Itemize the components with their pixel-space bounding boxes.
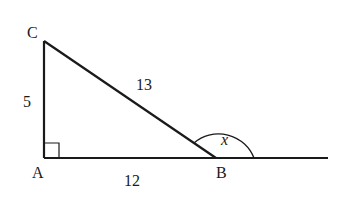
side-label-ac: 5 (23, 93, 31, 110)
angle-label-x: x (220, 131, 228, 148)
side-label-cb: 13 (136, 76, 152, 93)
side-cb (44, 41, 216, 158)
right-angle-marker (44, 143, 59, 158)
vertex-label-a: A (32, 164, 44, 181)
triangle-diagram: C A B 5 13 12 x (0, 0, 347, 200)
side-label-ab: 12 (124, 172, 140, 189)
vertex-label-c: C (27, 24, 38, 41)
vertex-label-b: B (216, 164, 227, 181)
